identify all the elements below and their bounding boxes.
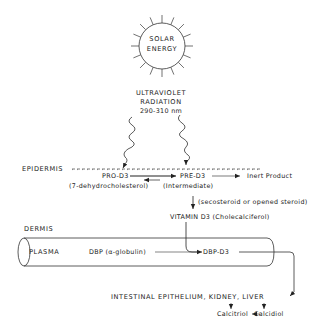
inert-product-label: Inert Product: [247, 173, 292, 179]
epidermis-label: EPIDERMIS: [22, 166, 63, 173]
pro-d3-label: PRO-D3: [102, 173, 129, 179]
secosteroid-label: (secosteroid or opened steroid): [198, 199, 308, 205]
dbp-globulin-label: DBP (α-globulin): [89, 249, 146, 255]
radiation-label-line1: ULTRAVIOLET: [136, 90, 186, 97]
sun-label-line2: ENERGY: [147, 46, 177, 53]
uv-ray-icon: [123, 115, 190, 168]
calcidiol-label: Calcidiol: [254, 311, 284, 317]
vitamin-d3-label: VITAMIN D3 (Cholecalciferol): [170, 214, 270, 220]
dermis-label: DERMIS: [24, 226, 53, 233]
radiation-wavelength: 290-310 nm: [140, 108, 182, 114]
sun-label-line1: SOLAR: [149, 36, 174, 43]
plasma-label: PLASMA: [29, 249, 59, 256]
pro-d3-description: (7-dehydrocholesterol): [69, 183, 148, 189]
target-organs-label: INTESTINAL EPITHELIUM, KIDNEY, LIVER: [111, 294, 264, 301]
pre-d3-label: PRE-D3: [180, 173, 205, 179]
epidermis-line: [72, 169, 260, 170]
dbp-d3-label: DBP-D3: [203, 249, 229, 255]
radiation-label-line2: RADIATION: [140, 99, 181, 106]
calcitriol-label: Calcitriol: [217, 311, 248, 317]
pre-d3-description: (Intermediate): [163, 183, 213, 189]
plasma-vessel: [18, 238, 294, 296]
